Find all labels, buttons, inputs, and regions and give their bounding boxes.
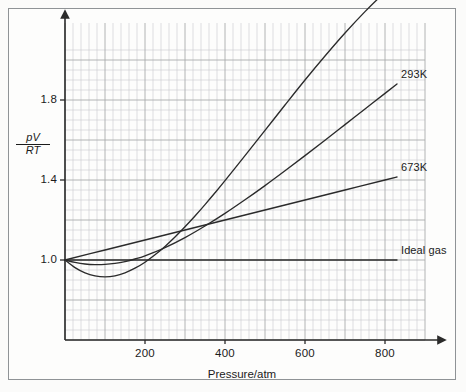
y-axis-title-denominator: RT [16, 145, 50, 157]
x-tick-label: 800 [365, 347, 405, 359]
series-curve-673k [65, 177, 397, 260]
y-tick-label: 1.0 [23, 253, 57, 265]
series-label-673k: 673K [401, 161, 427, 173]
y-axis-title: pV RT [16, 132, 50, 157]
grid-minor [65, 23, 425, 340]
x-tick-label: 200 [125, 347, 165, 359]
axis-ticks [60, 100, 385, 344]
y-axis-title-numerator: pV [16, 132, 50, 145]
chart-canvas [0, 0, 466, 392]
series-curve-293k [65, 84, 397, 265]
series-label-ideal-gas: Ideal gas [401, 244, 447, 256]
series-label-293k: 293K [401, 68, 427, 80]
data-series [65, 0, 397, 277]
x-tick-label: 600 [285, 347, 325, 359]
x-tick-label: 400 [205, 347, 245, 359]
figure-container: 1.0 1.4 1.8 200 400 600 800 Pressure/atm… [0, 0, 466, 392]
y-tick-label: 1.8 [23, 93, 57, 105]
grid-major [65, 23, 425, 340]
y-tick-label: 1.4 [23, 173, 57, 185]
x-axis-title: Pressure/atm [0, 368, 466, 380]
series-curve-203k [65, 0, 397, 277]
